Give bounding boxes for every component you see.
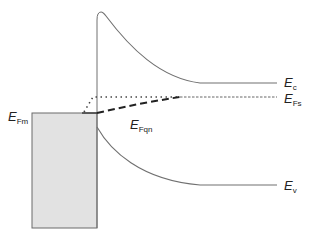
conduction-band-curve xyxy=(101,12,277,83)
interface-line xyxy=(97,12,101,228)
label-ec: Ec xyxy=(284,76,297,89)
label-efs: EFs xyxy=(284,92,302,105)
valence-band-curve xyxy=(97,127,277,185)
efqn-dashed-line xyxy=(97,97,180,113)
label-ev: Ev xyxy=(284,179,297,192)
label-efqn: EFqn xyxy=(130,118,152,131)
metal-block xyxy=(32,113,97,228)
label-efm: EFm xyxy=(8,110,28,123)
band-diagram xyxy=(0,0,311,239)
